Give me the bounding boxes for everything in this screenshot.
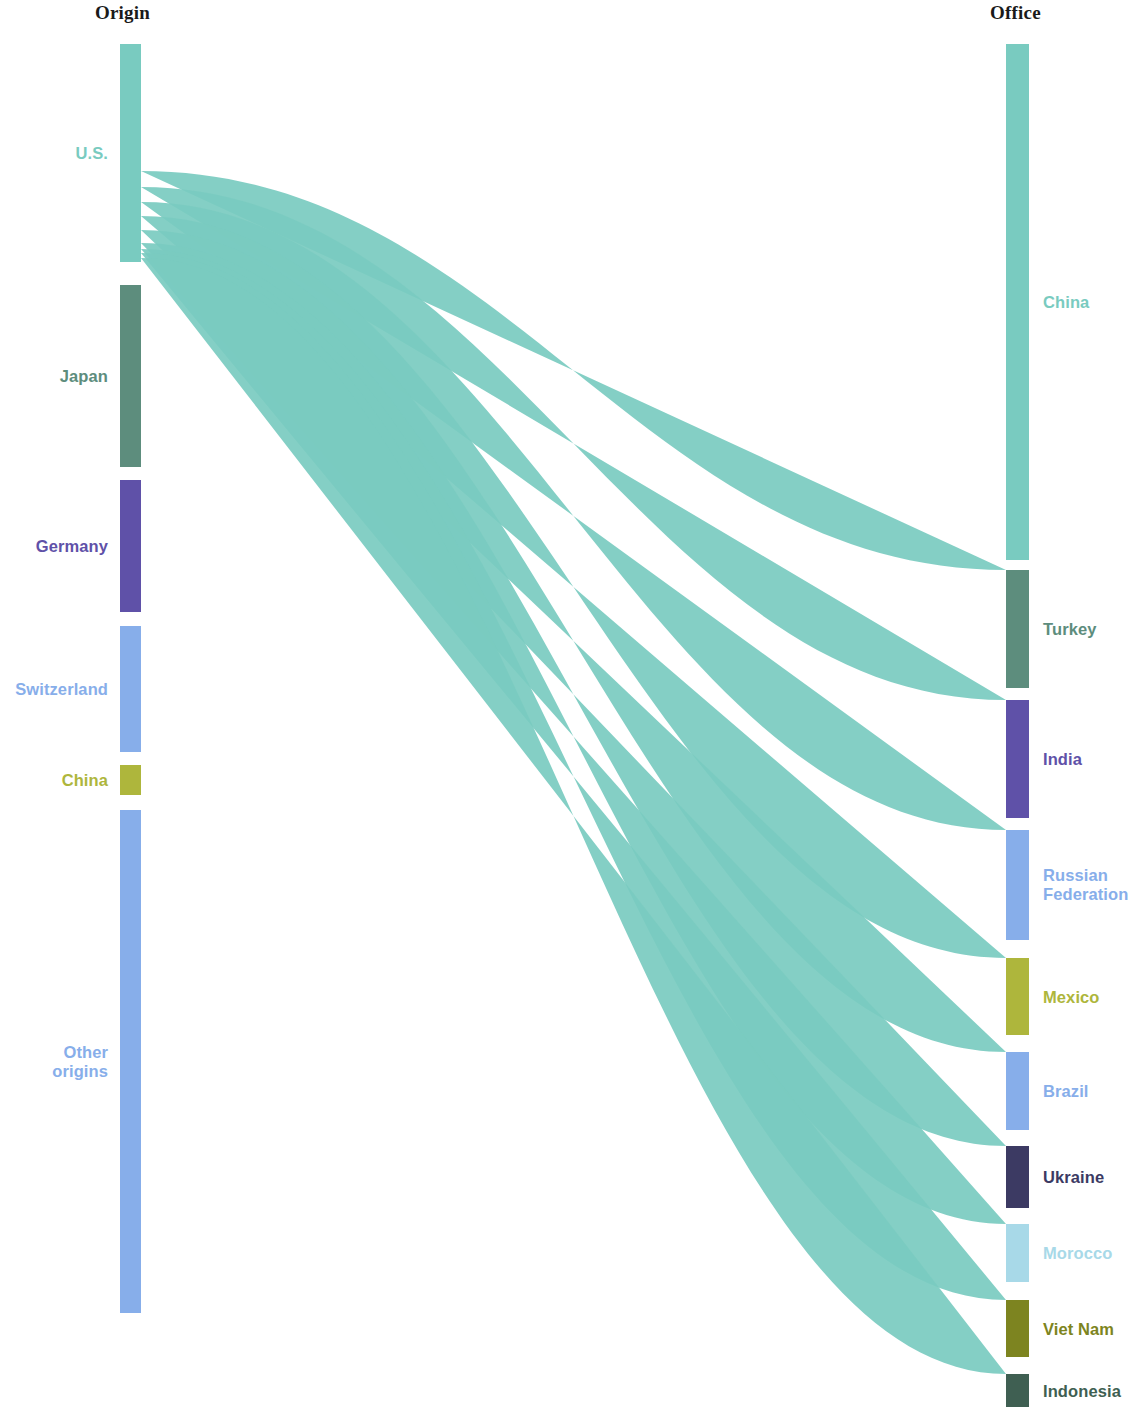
node-label-morocco: Morocco bbox=[1043, 1244, 1112, 1263]
node-label-russia: Russian Federation bbox=[1043, 866, 1128, 904]
sankey-node-other[interactable] bbox=[120, 810, 141, 1313]
node-label-us: U.S. bbox=[76, 144, 109, 163]
node-label-china_o: China bbox=[62, 771, 108, 790]
column-header-office: Office bbox=[990, 2, 1041, 24]
sankey-svg-canvas bbox=[0, 0, 1147, 1407]
sankey-node-germany[interactable] bbox=[120, 480, 141, 612]
sankey-node-japan[interactable] bbox=[120, 285, 141, 467]
node-label-japan: Japan bbox=[60, 367, 108, 386]
node-label-switzerland: Switzerland bbox=[15, 680, 108, 699]
sankey-node-morocco[interactable] bbox=[1006, 1224, 1029, 1282]
sankey-links-layer bbox=[141, 44, 1006, 1374]
node-label-brazil: Brazil bbox=[1043, 1082, 1089, 1101]
node-label-ukraine: Ukraine bbox=[1043, 1168, 1104, 1187]
node-label-vietnam: Viet Nam bbox=[1043, 1319, 1114, 1338]
sankey-node-indonesia[interactable] bbox=[1006, 1374, 1029, 1407]
sankey-node-russia[interactable] bbox=[1006, 830, 1029, 940]
node-label-other: Other origins bbox=[52, 1043, 108, 1081]
sankey-node-turkey[interactable] bbox=[1006, 570, 1029, 688]
sankey-node-switzerland[interactable] bbox=[120, 626, 141, 752]
node-label-indonesia: Indonesia bbox=[1043, 1381, 1121, 1400]
sankey-node-brazil[interactable] bbox=[1006, 1052, 1029, 1130]
sankey-node-china_o[interactable] bbox=[120, 765, 141, 795]
node-label-germany: Germany bbox=[36, 537, 108, 556]
node-label-turkey: Turkey bbox=[1043, 620, 1096, 639]
node-label-china: China bbox=[1043, 293, 1089, 312]
sankey-node-india[interactable] bbox=[1006, 700, 1029, 818]
sankey-diagram: Origin Office U.S.JapanGermanySwitzerlan… bbox=[0, 0, 1147, 1407]
column-header-origin: Origin bbox=[95, 2, 150, 24]
sankey-node-vietnam[interactable] bbox=[1006, 1300, 1029, 1357]
sankey-node-us[interactable] bbox=[120, 44, 141, 262]
sankey-node-mexico[interactable] bbox=[1006, 958, 1029, 1035]
node-label-mexico: Mexico bbox=[1043, 987, 1100, 1006]
node-label-india: India bbox=[1043, 750, 1082, 769]
sankey-node-ukraine[interactable] bbox=[1006, 1146, 1029, 1208]
sankey-node-china[interactable] bbox=[1006, 44, 1029, 560]
